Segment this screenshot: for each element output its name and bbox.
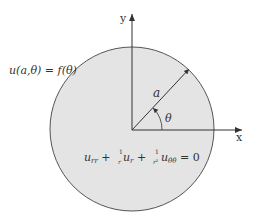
angle-label: θ — [165, 112, 172, 125]
y-axis-label: y — [119, 12, 127, 25]
svg-text:1: 1 — [155, 148, 159, 155]
polar-disk-diagram: y x a θ u(a,θ) = f(θ) urr + 1 r ur + 1 r… — [0, 0, 260, 223]
svg-text:ur +: ur + — [123, 151, 146, 165]
boundary-condition: u(a,θ) = f(θ) — [9, 64, 77, 77]
laplace-equation: urr + 1 r ur + 1 r² uθθ = 0 — [84, 148, 200, 165]
x-axis-label: x — [236, 131, 243, 144]
radius-label: a — [153, 86, 160, 100]
svg-text:urr +: urr + — [84, 151, 111, 165]
svg-text:r²: r² — [153, 158, 159, 165]
svg-text:uθθ = 0: uθθ = 0 — [161, 151, 200, 165]
